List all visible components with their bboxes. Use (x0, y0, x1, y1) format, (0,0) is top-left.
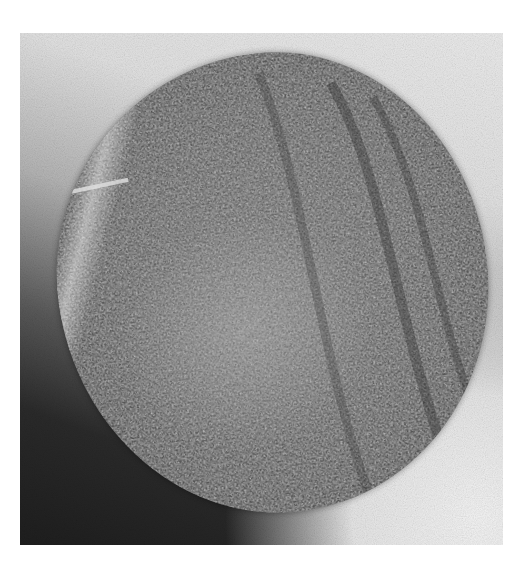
specimen-photo (20, 33, 503, 545)
rock-specimen (28, 33, 503, 541)
